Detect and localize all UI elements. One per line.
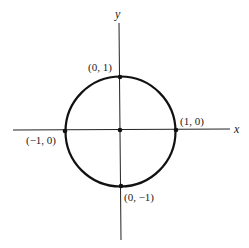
point-label-right: (1, 0) [180, 115, 204, 128]
point-label-top: (0, 1) [88, 61, 112, 74]
x-axis-label: x [233, 122, 240, 136]
point-left [63, 129, 68, 134]
point-label-bottom: (0, −1) [124, 191, 154, 204]
y-axis-label: y [114, 7, 121, 21]
unit-circle-diagram: y x (0, 1) (1, 0) (−1, 0) (0, −1) [0, 0, 249, 248]
point-right [174, 128, 179, 133]
origin-point [118, 128, 123, 133]
point-label-left: (−1, 0) [26, 134, 56, 147]
point-bottom [119, 184, 124, 189]
point-top [118, 75, 123, 80]
